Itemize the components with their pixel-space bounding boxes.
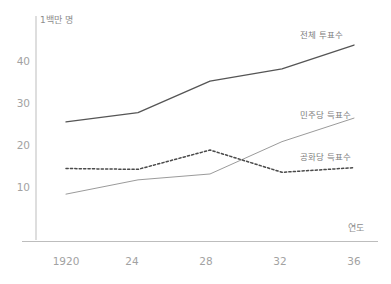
x-tick-label-28: 28	[186, 256, 226, 267]
series-label-total-votes: 전체 투표수	[300, 31, 343, 40]
x-axis-name-label: 연도	[348, 224, 364, 233]
chart-axes	[22, 16, 378, 242]
x-tick-label-24: 24	[112, 256, 152, 267]
chart-canvas: 1백만 명 40 30 20 10 1920 24 28 32 36 연도 전체…	[0, 0, 391, 284]
x-tick-label-32: 32	[260, 256, 300, 267]
series-label-republican-votes: 공화당 득표수	[300, 153, 351, 162]
x-tick-label-1920: 1920	[46, 256, 86, 267]
y-tick-label-30: 30	[8, 98, 30, 109]
y-axis-unit-label: 1백만 명	[40, 16, 73, 25]
y-tick-label-20: 20	[8, 140, 30, 151]
x-tick-label-36: 36	[334, 256, 374, 267]
line-chart-plot	[0, 0, 391, 284]
series-label-democratic-votes: 민주당 득표수	[300, 111, 351, 120]
y-tick-label-10: 10	[8, 182, 30, 193]
y-tick-label-40: 40	[8, 56, 30, 67]
